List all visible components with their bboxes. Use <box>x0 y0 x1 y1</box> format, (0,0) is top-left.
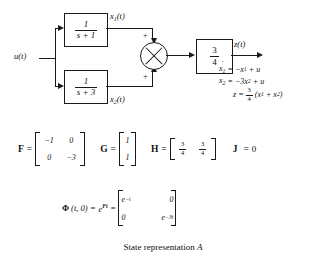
matrix-g-bracket: 1 1 <box>119 132 136 166</box>
transfer-function-block-2: 1 s + 3 <box>64 70 108 104</box>
eq3-term1-subscript: 1 <box>261 91 264 99</box>
figure-caption-label: A <box>197 242 203 252</box>
input-split-bus <box>55 28 56 87</box>
eq1-equals: = <box>227 65 232 76</box>
phi-cell-1-1: e−3t <box>147 208 173 226</box>
phi-symbol: Φ <box>62 203 69 213</box>
eq1-term2: u <box>256 65 260 76</box>
matrix-f-cell-0-1: 0 <box>60 132 82 149</box>
phi-cell-0-1: 0 <box>147 190 173 208</box>
matrix-h-equals: = <box>161 144 166 154</box>
state-2-label: x2(t) <box>110 95 125 106</box>
eq2-plus: + <box>253 77 258 88</box>
figure-caption: State representation A <box>0 242 326 252</box>
block2-numerator: 1 <box>82 77 91 86</box>
eq3-equals: = <box>238 90 243 101</box>
matrix-h-cell-0-1: 3 4 <box>193 139 213 159</box>
eq1-dot: ˙ <box>221 60 224 71</box>
matrix-h-bracket: 3 4 3 4 <box>170 138 216 160</box>
matrix-f-grid: −1 0 0 −3 <box>38 132 82 166</box>
phi-equals-1: = <box>91 203 96 213</box>
eq2-term2: u <box>260 77 264 88</box>
phi-arguments: (t, 0) <box>71 203 88 213</box>
phi-matrix-bracket: e−t 0 0 e−3t <box>118 190 176 226</box>
block2-denominator: s + 3 <box>75 88 98 97</box>
figure-state-representation-a: u(t) 1 s + 1 1 s + 3 x1(t) + x2(t) + <box>0 0 326 259</box>
matrix-definitions-row: F = −1 0 0 −3 G = 1 1 H = 3 <box>18 132 256 166</box>
matrix-f-cell-1-0: 0 <box>38 149 60 166</box>
output-signal-label: z(t) <box>234 40 245 49</box>
state-2-suffix: (t) <box>117 94 125 104</box>
block1-denominator: s + 1 <box>75 31 98 40</box>
eq3-plus: + <box>266 90 271 101</box>
eq1-term1-subscript: 1 <box>244 66 247 74</box>
matrix-h-den-1: 4 <box>199 150 206 157</box>
matrix-j-name: J <box>233 144 238 154</box>
matrix-j-equals: = <box>243 144 248 154</box>
eq3-lhs: z <box>233 90 236 101</box>
state-equation-1: ˙x1 = −x1 + u <box>219 64 282 76</box>
state-transition-matrix-row: Φ (t, 0) = eFt = e−t 0 0 e−3t <box>62 190 176 226</box>
eq2-dot: ˙ <box>221 72 224 83</box>
eq2-lhs: ˙x2 <box>219 76 225 88</box>
matrix-h-num-0: 3 <box>179 141 186 148</box>
state-1-suffix: (t) <box>117 11 125 21</box>
matrix-h-den-0: 4 <box>179 150 186 157</box>
matrix-f-name: F <box>18 144 24 154</box>
output-equation: z = 3 4 (x1 + x2) <box>233 88 282 102</box>
state-2-horizontal-line <box>106 86 153 87</box>
matrix-g-cell-0-0: 1 <box>122 132 133 149</box>
matrix-f-bracket: −1 0 0 −3 <box>35 132 85 166</box>
gain-fraction: 3 4 <box>210 46 219 66</box>
summer-to-gain-line <box>166 55 190 56</box>
eq2-equals: = <box>227 77 232 88</box>
summing-junction-plus-bottom: + <box>143 72 148 81</box>
gain-numerator: 3 <box>210 46 219 55</box>
block1-numerator: 1 <box>82 20 91 29</box>
matrix-f-cell-1-1: −3 <box>60 149 82 166</box>
phi-exp-superscript: Ft <box>102 203 107 209</box>
eq2-term1-subscript: 2 <box>248 78 251 86</box>
input-signal-label: u(t) <box>14 52 26 61</box>
matrix-h-grid: 3 4 3 4 <box>173 139 213 159</box>
input-lead-line <box>39 58 56 59</box>
matrix-f-equals: = <box>27 144 32 154</box>
phi-cell-1-1-sup: −3t <box>165 214 173 220</box>
eq1-plus: + <box>249 65 254 76</box>
state-1-label: x1(t) <box>110 12 125 23</box>
eq3-coef-numerator: 3 <box>246 87 253 94</box>
eq2-term1: −3x <box>235 77 248 88</box>
matrix-j-value: 0 <box>252 144 257 154</box>
matrix-g-name: G <box>100 144 107 154</box>
summing-junction <box>140 42 168 70</box>
matrix-h-fraction-0: 3 4 <box>179 141 186 156</box>
state-equations-group: ˙x1 = −x1 + u ˙x2 = −3x2 + u z = 3 4 (x1 <box>219 64 282 102</box>
matrix-f-cell-0-0: −1 <box>38 132 60 149</box>
block1-fraction: 1 s + 1 <box>75 20 98 40</box>
block2-fraction: 1 s + 3 <box>75 77 98 97</box>
state-1-horizontal-line <box>106 28 153 29</box>
eq3-coef-denominator: 4 <box>246 96 253 103</box>
figure-caption-text: State representation <box>124 242 195 252</box>
phi-cell-0-0: e−t <box>121 190 147 208</box>
matrix-h-name: H <box>151 144 158 154</box>
eq3-close-paren: ) <box>280 90 283 101</box>
phi-equals-2: = <box>111 203 116 213</box>
eq3-coefficient: 3 4 <box>246 87 253 102</box>
gain-denominator: 4 <box>210 58 219 67</box>
summing-junction-plus-top: + <box>143 31 148 40</box>
matrix-g-equals: = <box>111 144 116 154</box>
transfer-function-block-1: 1 s + 1 <box>64 13 108 47</box>
matrix-g-grid: 1 1 <box>122 132 133 166</box>
phi-cell-1-0: 0 <box>121 208 147 226</box>
summer-to-gain-arrow <box>189 52 195 58</box>
eq1-term1: −x <box>235 65 244 76</box>
state-2-vertical-line <box>152 71 153 87</box>
matrix-h-fraction-1: 3 4 <box>199 141 206 156</box>
output-arrow <box>257 52 263 58</box>
output-line <box>231 55 258 56</box>
matrix-h-num-1: 3 <box>199 141 206 148</box>
matrix-h-cell-0-0: 3 4 <box>173 139 193 159</box>
phi-exponential: eFt <box>98 203 107 214</box>
matrix-g-cell-1-0: 1 <box>122 149 133 166</box>
